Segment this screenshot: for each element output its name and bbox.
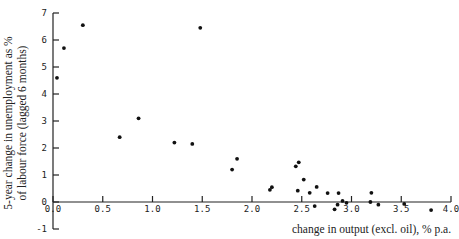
y-tick-label: 6 [42, 35, 47, 45]
data-point [297, 160, 301, 164]
data-point [370, 191, 374, 195]
x-tick-label: 0.5 [95, 204, 111, 214]
y-axis-title-line2: of labour force (lagged 6 months) [16, 45, 29, 200]
data-point [345, 201, 349, 205]
data-point [336, 203, 340, 207]
data-point [296, 189, 300, 193]
data-point [308, 191, 312, 195]
x-tick-label: 2.5 [294, 204, 310, 214]
data-point [230, 168, 234, 172]
data-point [172, 141, 176, 145]
data-point [302, 178, 306, 182]
data-point [81, 23, 85, 27]
data-point [198, 26, 202, 30]
x-axis: 0.00.51.01.52.02.53.03.54.0 [45, 196, 459, 214]
data-point [294, 164, 298, 168]
data-point [55, 76, 59, 80]
y-tick-label: 4 [42, 89, 47, 99]
x-tick-label: 4.0 [443, 204, 459, 214]
y-axis: -101234567 [36, 8, 59, 234]
y-tick-label: 3 [42, 116, 47, 126]
y-tick-label: 2 [42, 143, 47, 153]
x-tick-label: 3.0 [343, 204, 359, 214]
data-point [376, 203, 380, 207]
data-point [313, 204, 317, 208]
x-tick-label: 2.0 [244, 204, 260, 214]
data-point [235, 157, 239, 161]
y-axis-title-line1: 5-year change in unemployment as % [2, 36, 15, 210]
data-point [118, 135, 122, 139]
data-point [326, 191, 330, 195]
y-tick-label: 7 [42, 8, 47, 18]
y-tick-label: 5 [42, 62, 47, 72]
x-tick-label: 1.5 [194, 204, 210, 214]
data-points [55, 23, 433, 212]
x-tick-label: 3.5 [393, 204, 409, 214]
data-point [402, 202, 406, 206]
x-axis-title: change in output (excl. oil), % p.a. [292, 223, 451, 236]
data-point [137, 116, 141, 120]
data-point [62, 46, 66, 50]
data-point [315, 185, 319, 189]
data-point [270, 185, 274, 189]
data-point [429, 208, 433, 212]
y-tick-label: 1 [42, 170, 47, 180]
x-tick-label: 0.0 [45, 204, 61, 214]
y-tick-label: -1 [36, 224, 47, 234]
x-tick-label: 1.0 [144, 204, 160, 214]
data-point [190, 142, 194, 146]
data-point [333, 207, 337, 211]
data-point [369, 200, 373, 204]
scatter-chart: -101234567 0.00.51.01.52.02.53.03.54.0 c… [0, 0, 459, 239]
data-point [337, 191, 341, 195]
data-point [341, 199, 345, 203]
